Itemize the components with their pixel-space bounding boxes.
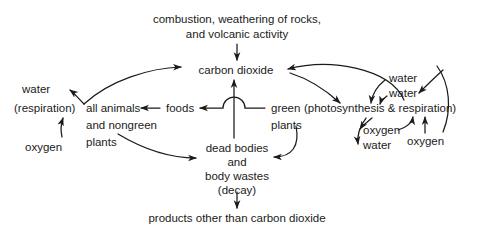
label-oxygen-far-right: oxygen — [407, 134, 444, 148]
edge-green-plants-to-foods — [200, 97, 265, 108]
edge-green-plants-to-carbon-dioxide — [288, 65, 404, 100]
label-plants-right: plants — [271, 118, 302, 132]
label-oxygen-left: oxygen — [25, 140, 62, 154]
label-water-inner-right: water — [363, 138, 391, 152]
label-dead-bodies: dead bodies — [206, 141, 269, 155]
carbon-cycle-diagram: combustion, weathering of rocks, and vol… — [0, 0, 482, 240]
edge-outer-right-sweep — [437, 66, 449, 132]
label-and-nongreen: and nongreen — [86, 118, 157, 132]
edge-oxygen-into-plants — [398, 117, 413, 130]
edge-animals-to-carbon-dioxide — [84, 67, 181, 104]
edge-animals-to-dead-bodies — [118, 134, 196, 158]
label-plants-left: plants — [86, 135, 117, 149]
label-water-upper-right: water — [389, 71, 417, 85]
label-combustion-line2: and volcanic activity — [186, 27, 288, 41]
label-body-wastes: body wastes — [205, 169, 269, 183]
label-and: and — [227, 155, 246, 169]
label-all-animals: all animals — [86, 101, 140, 115]
label-decay: (decay) — [218, 183, 256, 197]
label-oxygen-inner-right: oxygen — [363, 123, 400, 137]
edge-outer-to-water-lower — [419, 70, 443, 93]
edge-oxygen-to-respiration — [61, 118, 63, 137]
label-water-lower-right: water — [389, 86, 417, 100]
label-combustion-line1: combustion, weathering of rocks, — [153, 12, 321, 26]
label-products: products other than carbon dioxide — [148, 211, 325, 225]
edge-carbon-dioxide-to-green-plants — [290, 73, 340, 103]
label-carbon-dioxide: carbon dioxide — [199, 63, 274, 77]
label-respiration-left: (respiration) — [14, 101, 75, 115]
label-photosynthesis-respiration: (photosynthesis & respiration) — [304, 101, 456, 115]
label-water-left: water — [22, 82, 50, 96]
label-green: green — [271, 101, 300, 115]
label-foods: foods — [166, 101, 194, 115]
